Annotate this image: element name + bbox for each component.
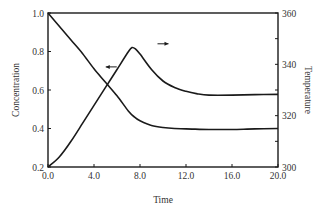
arrowhead-icon (165, 42, 169, 46)
y-right-tick-label: 360 (282, 9, 297, 19)
y-left-tick-label: 1.0 (32, 9, 44, 19)
y-left-tick-label: 0.4 (32, 124, 44, 134)
x-axis-title: Time (153, 195, 173, 205)
x-tick-label: 4.0 (88, 171, 100, 181)
plot-border (48, 13, 278, 167)
y-right-axis-title: Temperature (303, 66, 313, 114)
y-right-tick-label: 300 (282, 163, 297, 173)
series-line-temperature (48, 47, 278, 167)
x-tick-label: 16.0 (224, 171, 241, 181)
series-line-concentration (48, 13, 278, 130)
dual-axis-line-chart: 0.04.08.012.016.020.0 0.20.40.60.81.0 30… (0, 0, 324, 211)
x-tick-label: 0.0 (42, 171, 54, 181)
x-tick-label: 20.0 (270, 171, 287, 181)
arrowhead-icon (106, 65, 110, 69)
y-right-tick-label: 340 (282, 60, 297, 70)
y-left-tick-label: 0.2 (32, 163, 44, 173)
series-group (48, 13, 278, 167)
y-left-axis-title: Concentration (11, 63, 21, 117)
annotation-arrows (106, 42, 169, 69)
x-tick-label: 8.0 (134, 171, 146, 181)
plot-frame (48, 13, 278, 167)
y-left-tick-label: 0.8 (32, 47, 44, 57)
y-left-tick-label: 0.6 (32, 86, 44, 96)
y-right-tick-label: 320 (282, 111, 297, 121)
x-tick-label: 12.0 (178, 171, 195, 181)
